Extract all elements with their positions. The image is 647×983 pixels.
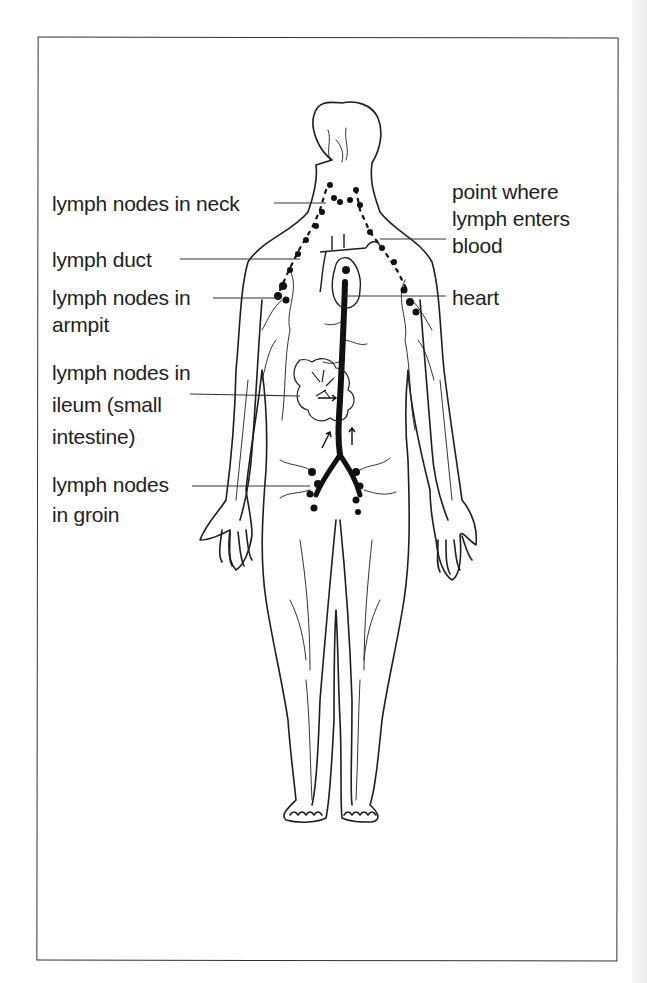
leader-ileum — [190, 394, 300, 396]
lymphatic-system-illustration — [0, 0, 647, 983]
